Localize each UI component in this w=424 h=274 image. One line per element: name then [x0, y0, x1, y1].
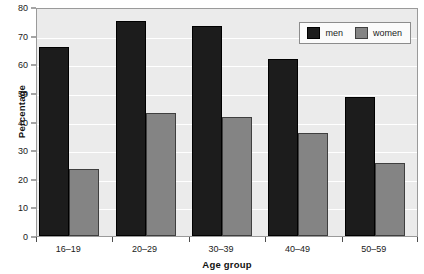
x-tick-mark: [417, 237, 418, 242]
y-tick-label: 20: [18, 175, 28, 185]
y-tick-label: 80: [18, 3, 28, 13]
x-axis-title: Age group: [36, 259, 418, 270]
legend-entry-men[interactable]: men: [307, 27, 343, 39]
bar-men-50-59: [345, 97, 375, 236]
bar-men-40-49: [268, 59, 298, 236]
bar-chart-figure: Percentage 01020304050607080 men women 1…: [0, 0, 424, 274]
bar-women-30-39: [222, 117, 252, 236]
x-tick-mark: [36, 237, 37, 242]
legend-label-men: men: [325, 28, 343, 38]
x-axis-tick-labels: 16–1920–2930–3940–4950–59: [36, 244, 418, 258]
bar-women-40-49: [298, 133, 328, 236]
x-tick-mark: [189, 237, 190, 242]
y-tick-label: 10: [18, 203, 28, 213]
bar-women-20-29: [146, 113, 176, 236]
bar-men-16-19: [39, 47, 69, 236]
y-tick-label: 50: [18, 89, 28, 99]
y-tick-label: 0: [23, 232, 28, 242]
y-tick-label: 70: [18, 32, 28, 42]
y-tick-label: 60: [18, 60, 28, 70]
x-axis-tick-marks: [36, 237, 418, 243]
legend-swatch-women-icon: [355, 27, 368, 39]
chart-legend[interactable]: men women: [299, 22, 411, 44]
x-tick-mark: [112, 237, 113, 242]
bar-women-16-19: [69, 169, 99, 236]
bar-group: [192, 9, 252, 236]
y-tick-label: 40: [18, 118, 28, 128]
y-tick-label: 30: [18, 146, 28, 156]
bar-group: [39, 9, 99, 236]
x-tick-mark: [342, 237, 343, 242]
legend-swatch-men-icon: [307, 27, 320, 39]
bar-women-50-59: [375, 163, 405, 236]
x-tick-label: 40–49: [285, 244, 310, 254]
bar-men-30-39: [192, 26, 222, 236]
x-tick-label: 20–29: [132, 244, 157, 254]
bar-group: [116, 9, 176, 236]
legend-label-women: women: [373, 28, 402, 38]
x-tick-label: 30–39: [208, 244, 233, 254]
legend-entry-women[interactable]: women: [355, 27, 402, 39]
bar-men-20-29: [116, 21, 146, 236]
plot-area: men women: [36, 8, 418, 237]
x-tick-mark: [265, 237, 266, 242]
x-tick-label: 16–19: [56, 244, 81, 254]
x-tick-label: 50–59: [361, 244, 386, 254]
y-axis-ticks: 01020304050607080: [0, 0, 36, 274]
